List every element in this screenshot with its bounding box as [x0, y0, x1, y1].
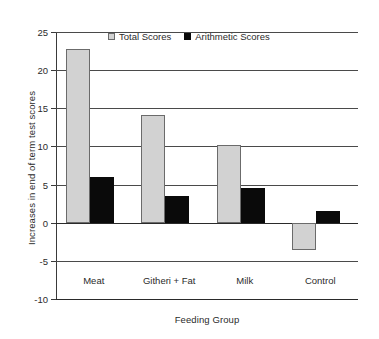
y-axis-title: Increases in end of term test scores — [26, 68, 40, 268]
bar-chart: Increases in end of term test scores 252… — [0, 0, 379, 339]
bar-meat-arithmetic-scores — [90, 177, 114, 223]
y-tick-label: 20 — [37, 65, 48, 76]
y-tick-label: 15 — [37, 103, 48, 114]
y-tick-mark — [51, 299, 56, 300]
plot-area: 2520151050-5-10 — [56, 32, 358, 299]
y-tick-label: -10 — [34, 294, 48, 305]
y-tick-mark — [51, 261, 56, 262]
bar-control-arithmetic-scores — [316, 211, 340, 223]
y-tick-label: 0 — [43, 217, 48, 228]
category-label-githeri-fat: Githeri + Fat — [143, 275, 196, 286]
y-tick-mark — [51, 185, 56, 186]
gridline-15: 15 — [56, 108, 358, 109]
y-tick-label: 10 — [37, 141, 48, 152]
bar-control-total-scores — [292, 223, 316, 250]
chart-legend: Total ScoresArithmetic Scores — [108, 31, 270, 42]
bar-milk-total-scores — [217, 145, 241, 223]
category-label-milk: Milk — [236, 275, 253, 286]
category-label-control: Control — [305, 275, 336, 286]
y-tick-mark-top — [51, 32, 56, 33]
legend-entry-arithmetic-scores: Arithmetic Scores — [184, 31, 269, 42]
y-tick-mark — [51, 146, 56, 147]
y-tick-label: -5 — [40, 255, 48, 266]
bar-milk-arithmetic-scores — [241, 188, 265, 222]
bar-githeri-fat-total-scores — [141, 115, 165, 223]
legend-entry-total-scores: Total Scores — [108, 31, 171, 42]
legend-swatch-icon — [184, 33, 191, 40]
y-tick-mark — [51, 108, 56, 109]
gridline-10: 10 — [56, 146, 358, 147]
y-tick-mark — [51, 223, 56, 224]
bar-meat-total-scores — [66, 49, 90, 223]
gridline-20: 20 — [56, 70, 358, 71]
gridline--5: -5 — [56, 261, 358, 262]
gridline--10: -10 — [56, 299, 358, 300]
legend-label: Total Scores — [119, 31, 171, 42]
bar-githeri-fat-arithmetic-scores — [165, 196, 189, 223]
y-tick-label: 5 — [43, 179, 48, 190]
category-label-meat: Meat — [83, 275, 104, 286]
y-tick-mark — [51, 70, 56, 71]
legend-label: Arithmetic Scores — [195, 31, 269, 42]
x-axis-title: Feeding Group — [56, 314, 358, 325]
y-tick-label: 25 — [37, 27, 48, 38]
legend-swatch-icon — [108, 33, 115, 40]
